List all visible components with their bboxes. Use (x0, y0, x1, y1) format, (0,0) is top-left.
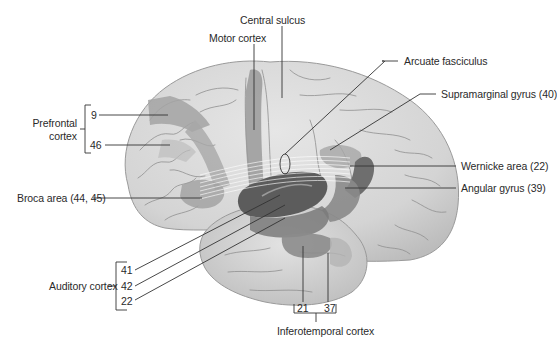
label-prefrontal-cortex-line2: cortex (30, 130, 77, 142)
label-broca-area: Broca area (44, 45) (17, 192, 106, 204)
label-arcuate-fasciculus: Arcuate fasciculus (404, 55, 487, 67)
label-area-42: 42 (121, 280, 132, 292)
label-motor-cortex: Motor cortex (209, 32, 266, 44)
label-prefrontal-cortex-line1: Prefrontal (30, 117, 77, 129)
label-central-sulcus: Central sulcus (240, 14, 305, 26)
label-area-22: 22 (121, 295, 132, 307)
label-wernicke-area: Wernicke area (22) (461, 160, 548, 172)
label-area-21: 21 (297, 302, 308, 314)
label-inferotemporal-cortex: Inferotemporal cortex (277, 325, 374, 337)
label-auditory-cortex: Auditory cortex (49, 280, 118, 292)
label-angular-gyrus: Angular gyrus (39) (461, 182, 546, 194)
label-area-9: 9 (91, 109, 97, 121)
label-area-41: 41 (121, 264, 132, 276)
label-area-37: 37 (324, 302, 335, 314)
label-supramarginal-gyrus: Supramarginal gyrus (40) (441, 88, 557, 100)
label-area-46: 46 (90, 139, 101, 151)
